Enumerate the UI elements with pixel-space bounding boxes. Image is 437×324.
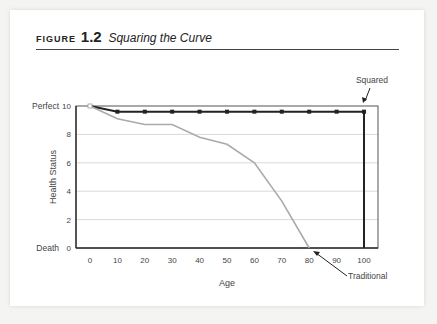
data-marker: [307, 110, 311, 114]
y-tick-label: 8: [67, 130, 72, 139]
x-tick-label: 30: [168, 256, 177, 265]
x-tick-label: 80: [305, 256, 314, 265]
x-tick-label: 40: [195, 256, 204, 265]
x-axis-label: Age: [219, 278, 235, 288]
x-tick-label: 90: [332, 256, 341, 265]
y-tick-label: 2: [67, 216, 72, 225]
data-marker: [252, 110, 256, 114]
data-marker: [115, 110, 119, 114]
annotation-traditional: Traditional: [348, 271, 387, 281]
annotation-squared: Squared: [356, 75, 388, 85]
start-marker: [88, 104, 92, 108]
y-tick-prefix: Perfect: [32, 101, 60, 111]
y-axis-label: Health Status: [48, 149, 58, 204]
y-tick-label: 6: [67, 159, 72, 168]
x-tick-label: 70: [277, 256, 286, 265]
x-tick-label: 10: [113, 256, 122, 265]
y-tick-label: 0: [67, 244, 72, 253]
plot-frame: [76, 106, 378, 248]
data-marker: [170, 110, 174, 114]
data-marker: [198, 110, 202, 114]
data-marker: [143, 110, 147, 114]
data-marker: [335, 110, 339, 114]
y-tick-label: 4: [67, 187, 72, 196]
x-tick-label: 20: [140, 256, 149, 265]
series-line-traditional: [90, 106, 309, 248]
x-tick-label: 50: [223, 256, 232, 265]
data-marker: [362, 110, 366, 114]
series-line-squared: [90, 106, 364, 248]
x-tick-label: 60: [250, 256, 259, 265]
x-tick-label: 0: [88, 256, 93, 265]
data-marker: [280, 110, 284, 114]
y-tick-label: 10: [62, 102, 71, 111]
y-tick-prefix: Death: [36, 243, 59, 253]
x-tick-label: 100: [357, 256, 371, 265]
chart: 0Death246810Perfect010203040506070809010…: [0, 0, 437, 324]
data-marker: [225, 110, 229, 114]
